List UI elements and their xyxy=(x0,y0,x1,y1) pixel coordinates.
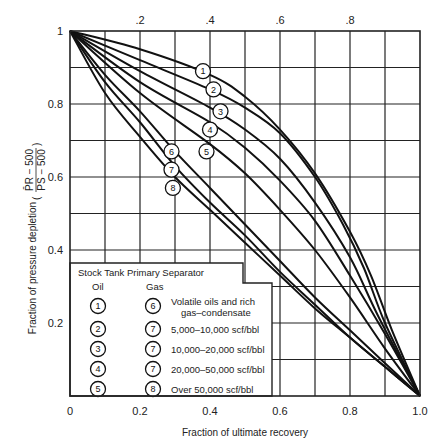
legend-entry-text-2: gas–condensate xyxy=(181,307,251,318)
legend-oil-badge-number: 3 xyxy=(95,344,100,354)
legend-entry-text: 10,000–20,000 scf/bbl xyxy=(171,344,265,355)
legend-entry-text: 20,000–50,000 scf/bbl xyxy=(171,364,265,375)
y-tick: 0.8 xyxy=(48,98,63,110)
legend-title: Stock Tank Primary Separator xyxy=(78,267,204,278)
curve-label-3-number: 3 xyxy=(218,107,223,117)
x-tick-bottom: 0.8 xyxy=(342,405,357,417)
curve-label-2-number: 2 xyxy=(211,85,216,95)
formula-denominator: PS − 500 xyxy=(36,149,47,191)
legend-oil-badge-number: 2 xyxy=(95,324,100,334)
curve-label-6-number: 6 xyxy=(169,147,174,157)
chart: Stock Tank Primary SeparatorOilGas16Vola… xyxy=(0,0,438,444)
y-tick: 0.2 xyxy=(48,317,63,329)
x-tick-top: .6 xyxy=(275,14,284,26)
x-axis-title: Fraction of ultimate recovery xyxy=(182,427,308,438)
legend-entry-text: 5,000–10,000 scf/bbl xyxy=(171,324,259,335)
formula-numerator: P̄R − 500 xyxy=(23,149,35,191)
legend-gas-badge-number: 7 xyxy=(150,344,155,354)
curve-label-1-number: 1 xyxy=(200,66,205,76)
legend-gas-badge-number: 8 xyxy=(150,384,155,394)
x-tick-bottom: 1.0 xyxy=(412,405,427,417)
curve-label-4-number: 4 xyxy=(207,125,212,135)
y-axis-formula: (P̄R − 500PS − 500) xyxy=(23,143,47,200)
legend-gas-badge-number: 7 xyxy=(150,364,155,374)
legend-oil-header: Oil xyxy=(92,281,104,292)
legend-gas-badge-number: 6 xyxy=(150,301,155,311)
legend-oil-badge-number: 4 xyxy=(95,364,100,374)
x-tick-bottom: 0.2 xyxy=(132,405,147,417)
curve-label-8-number: 8 xyxy=(170,183,175,193)
legend-oil-badge-number: 1 xyxy=(95,301,100,311)
x-tick-top: .4 xyxy=(205,14,214,26)
y-tick: 0.6 xyxy=(48,171,63,183)
curve-label-5-number: 5 xyxy=(204,147,209,157)
legend-gas-header: Gas xyxy=(146,281,164,292)
x-tick-top: .8 xyxy=(345,14,354,26)
paren-left: ( xyxy=(31,196,42,200)
x-tick-bottom: 0 xyxy=(67,405,73,417)
paren-right: ) xyxy=(31,143,42,146)
legend: Stock Tank Primary SeparatorOilGas16Vola… xyxy=(70,263,272,397)
x-tick-top: .2 xyxy=(135,14,144,26)
legend-gas-badge-number: 7 xyxy=(150,324,155,334)
legend-oil-badge-number: 5 xyxy=(95,384,100,394)
y-tick: 0.4 xyxy=(48,244,63,256)
legend-entry-text: Over 50,000 scf/bbl xyxy=(171,384,253,395)
legend-entry-text: Volatile oils and rich xyxy=(171,296,255,307)
x-tick-bottom: 0.4 xyxy=(202,405,217,417)
y-axis-title: Fraction of pressure depletion xyxy=(27,202,38,334)
y-tick: 1 xyxy=(57,25,63,37)
curve-label-7-number: 7 xyxy=(169,165,174,175)
x-tick-bottom: 0.6 xyxy=(272,405,287,417)
